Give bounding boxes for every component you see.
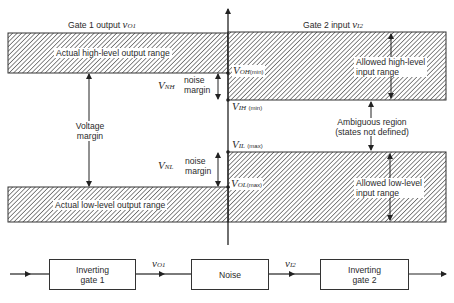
nh-noise-margin-label: noise margin (184, 75, 210, 95)
vil-max-label: VIL (max) (232, 139, 263, 151)
vo1-signal-label: vO1 (152, 258, 165, 270)
vnl-symbol: VNL (158, 160, 173, 172)
vnh-symbol: VNH (158, 80, 174, 92)
allowed-low-range-label: Allowed low-level input range (354, 178, 424, 198)
actual-low-range-label: Actual low-level output range (53, 200, 167, 210)
gate1-output-title: Gate 1 output vO1 (68, 19, 136, 31)
actual-high-range-label: Actual high-level output range (54, 48, 172, 58)
nl-noise-margin-label: noise margin (185, 156, 211, 176)
inverting-gate-2-block: Inverting gate 2 (320, 259, 409, 290)
vih-min-label: VIH (min) (232, 101, 262, 113)
vi2-signal-label: vI2 (285, 258, 296, 270)
vol-max-label: VOL(max) (230, 178, 263, 190)
voltage-margin-label: Voltage margin (70, 121, 110, 141)
allowed-high-range-label: Allowed high-level input range (354, 57, 427, 77)
gate2-input-title: Gate 2 input vI2 (303, 19, 363, 31)
inverting-gate-1-block: Inverting gate 1 (49, 259, 136, 290)
ambiguous-region-label: Ambiguous region (states not defined) (330, 117, 414, 137)
noise-block: Noise (191, 259, 269, 290)
diagram-graphics (0, 0, 454, 303)
voh-min-label: VOH(min) (232, 65, 265, 77)
